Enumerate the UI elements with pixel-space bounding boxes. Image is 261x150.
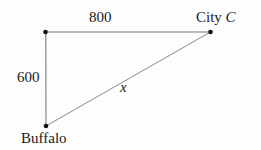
- top-edge-length-label: 800: [89, 10, 112, 25]
- corner-vertex-dot: [43, 30, 48, 35]
- buffalo-vertex-dot: [44, 124, 49, 129]
- city-c-prefix-text: City: [196, 9, 226, 25]
- hypotenuse-length-label: x: [120, 80, 127, 95]
- buffalo-vertex-label: Buffalo: [21, 131, 67, 146]
- left-edge-length-label: 600: [17, 70, 40, 85]
- city-c-vertex-dot: [208, 30, 213, 35]
- hypotenuse-edge-line: [46, 32, 211, 126]
- city-c-letter-text: C: [226, 9, 236, 25]
- triangle-diagram: 800 600 x City C Buffalo: [0, 0, 261, 150]
- city-c-vertex-label: City C: [196, 10, 236, 25]
